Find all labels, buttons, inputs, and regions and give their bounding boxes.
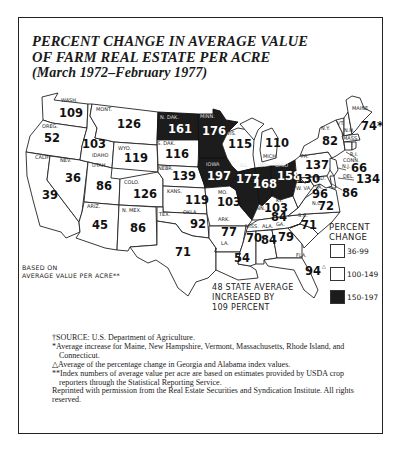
value-ind: 168 <box>253 177 277 191</box>
value-oreg: 52 <box>44 131 60 145</box>
value-calif: 39 <box>42 188 58 202</box>
state-conn <box>344 142 352 150</box>
label-ind: IND. <box>258 162 269 168</box>
value-utah: 86 <box>96 179 112 193</box>
legend-title-line-1: PERCENT <box>329 222 370 232</box>
value-colo: 126 <box>133 187 157 201</box>
value-nmex: 86 <box>130 221 146 235</box>
value-ala: 84 <box>261 233 277 247</box>
basis-note: BASED ON AVERAGE VALUE PER ACRE** <box>22 264 120 280</box>
label-idaho: IDAHO <box>92 152 108 158</box>
basis-note-line-1: BASED ON <box>22 264 120 272</box>
value-nebr: 139 <box>172 169 196 183</box>
value-iowa: 197 <box>207 169 231 183</box>
value-sdak: 116 <box>165 147 189 161</box>
label-mass: MASS. <box>343 135 359 141</box>
label-sdak: S. DAK. <box>157 140 176 146</box>
label-vt: VT. <box>337 120 345 126</box>
label-wash: WASH. <box>61 97 78 103</box>
value-mich: 110 <box>265 136 289 150</box>
label-minn: MINN. <box>200 113 215 119</box>
legend-label: 100-149 <box>347 270 378 279</box>
value-mo: 103 <box>217 195 241 209</box>
value-pa: 137 <box>305 158 329 172</box>
value-nc: 72 <box>318 199 334 213</box>
average-line-2: INCREASED BY <box>212 293 294 303</box>
state-nj <box>330 158 338 176</box>
legend-label: 36-99 <box>347 247 369 256</box>
label-calif: CALIF. <box>35 154 50 160</box>
value-miss: 70 <box>246 231 262 245</box>
average-line-1: 48 STATE AVERAGE <box>212 283 294 293</box>
legend-swatch-white <box>330 244 345 258</box>
label-utah: UTAH <box>92 162 106 168</box>
national-average-note: 48 STATE AVERAGE INCREASED BY 109 PERCEN… <box>212 283 294 313</box>
label-ariz: ARIZ. <box>87 203 101 209</box>
value-okla: 92 <box>190 217 206 231</box>
footnote-double-star: **Index numbers of average value per acr… <box>52 369 372 387</box>
reprint-note: Reprinted with permission from the Real … <box>52 386 372 404</box>
value-wva: 130 <box>296 172 320 186</box>
value-nj: 66 <box>351 161 367 175</box>
label-ohio: OHIO <box>275 162 288 168</box>
legend-item-high: 150-197 <box>330 290 378 304</box>
legend-swatch-black <box>330 290 345 304</box>
value-sc: 71 <box>301 218 317 232</box>
footnotes: †SOURCE: U.S. Department of Agriculture.… <box>52 333 372 387</box>
label-ndak: N. DAK. <box>160 114 179 120</box>
label-mont: MONT. <box>96 106 112 112</box>
value-new-england: 74* <box>361 119 383 133</box>
label-ny: N.Y. <box>321 125 330 131</box>
label-miss: MISS. <box>245 223 259 229</box>
value-ariz: 45 <box>92 218 108 232</box>
legend-label: 150-197 <box>347 293 378 302</box>
value-nev: 36 <box>65 171 81 185</box>
value-mont: 126 <box>117 117 141 131</box>
value-fla: 94 <box>305 264 321 278</box>
label-iowa: IOWA <box>206 161 220 167</box>
value-wash: 109 <box>59 106 83 120</box>
value-la: 54 <box>234 251 250 265</box>
label-nmex: N. MEX. <box>122 207 142 213</box>
label-maine: MAINE <box>352 105 368 111</box>
label-ark: ARK. <box>218 216 230 222</box>
value-kans: 119 <box>185 193 209 207</box>
footnote-star: *Average increase for Maine, New Hampshi… <box>52 342 372 360</box>
value-ny: 82 <box>322 134 338 148</box>
label-tex: TEX. <box>158 211 171 217</box>
legend-title-line-2: CHANGE <box>329 232 370 242</box>
label-oreg: OREG. <box>42 123 58 129</box>
label-nh: N.H. <box>344 127 355 133</box>
label-mich: MICH. <box>263 153 278 159</box>
value-wyo: 119 <box>124 151 148 165</box>
footnote-triangle: △Average of the percentage change in Geo… <box>52 360 372 369</box>
footnote-source: †SOURCE: U.S. Department of Agriculture. <box>52 333 372 342</box>
value-tenn: 84 <box>271 210 287 224</box>
value-ga: 79 <box>278 230 294 244</box>
average-line-3: 109 PERCENT <box>212 303 294 313</box>
value-md: 86 <box>342 186 358 200</box>
label-ill: ILL. <box>240 162 249 168</box>
legend-swatch-white <box>330 267 345 281</box>
value-minn: 176 <box>202 124 226 138</box>
value-wis: 115 <box>228 137 252 151</box>
label-la: LA. <box>221 240 229 246</box>
label-nj: N.J. <box>342 163 351 169</box>
label-kans: KANS. <box>167 188 183 194</box>
legend-title: PERCENT CHANGE <box>329 222 370 242</box>
label-colo: COLO. <box>124 179 140 185</box>
value-idaho: 103 <box>82 137 106 151</box>
value-ndak: 161 <box>168 122 192 136</box>
basis-note-line-2: AVERAGE VALUE PER ACRE** <box>22 272 120 280</box>
label-wis: WIS. <box>225 130 237 136</box>
source-prefix: †SOURCE: <box>52 333 90 342</box>
label-nev: NEV. <box>60 157 72 163</box>
legend-item-mid: 100-149 <box>330 267 378 281</box>
triangle-mark-icon: △ <box>322 263 326 269</box>
label-fla: FLA. <box>296 252 307 258</box>
source-text: U.S. Department of Agriculture. <box>90 333 195 342</box>
legend-item-low: 36-99 <box>330 244 369 258</box>
value-tex: 71 <box>175 245 191 259</box>
value-va: 96 <box>312 187 328 201</box>
value-ark: 77 <box>221 225 237 239</box>
